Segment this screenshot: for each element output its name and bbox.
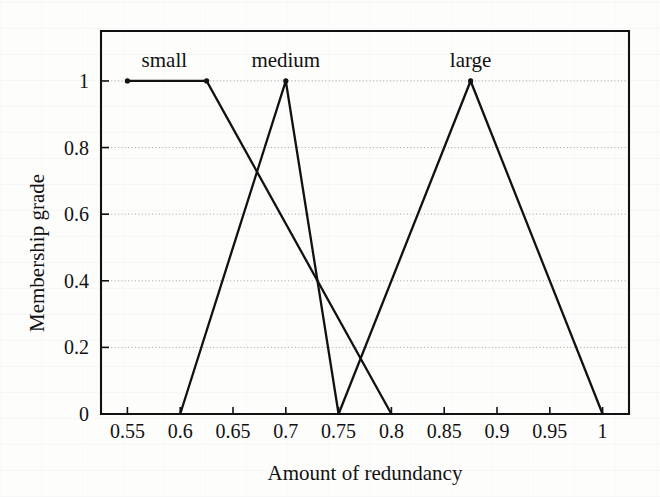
x-axis-title: Amount of redundancy [268,461,463,485]
peak-marker [125,78,130,83]
membership-function-curves [127,81,602,414]
y-tick-label: 1 [79,70,89,92]
series-label-medium: medium [251,48,320,72]
x-tick-label: 0.65 [216,420,251,442]
series-labels: smallmediumlarge [142,48,492,72]
y-axis-tick-labels: 00.20.40.60.81 [64,70,89,425]
y-tick-label: 0.6 [64,203,89,225]
membership-curve-small [127,81,391,414]
y-tick-label: 0 [79,403,89,425]
grid-lines [101,81,629,347]
series-label-large: large [450,48,492,72]
x-tick-label: 0.55 [110,420,145,442]
y-tick-label: 0.4 [64,270,89,292]
x-tick-label: 0.8 [379,420,404,442]
x-tick-label: 1 [598,420,608,442]
peak-marker [204,78,209,83]
y-axis-title: Membership grade [25,174,49,332]
y-tick-label: 0.2 [64,336,89,358]
series-label-small: small [142,48,188,72]
chart-canvas: 0.550.60.650.70.750.80.850.90.951 00.20.… [0,0,660,497]
y-axis-ticks [101,81,109,414]
x-tick-label: 0.95 [532,420,567,442]
fuzzy-membership-chart: 0.550.60.650.70.750.80.850.90.951 00.20.… [0,0,660,497]
peak-marker [283,78,288,83]
x-axis-tick-labels: 0.550.60.650.70.750.80.850.90.951 [110,420,608,442]
y-tick-label: 0.8 [64,137,89,159]
x-tick-label: 0.6 [168,420,193,442]
x-tick-label: 0.75 [321,420,356,442]
peak-marker [468,78,473,83]
membership-curve-medium [180,81,338,414]
x-tick-label: 0.9 [485,420,510,442]
x-tick-label: 0.85 [427,420,462,442]
x-tick-label: 0.7 [273,420,298,442]
plot-frame [101,31,629,414]
membership-curve-large [339,81,603,414]
